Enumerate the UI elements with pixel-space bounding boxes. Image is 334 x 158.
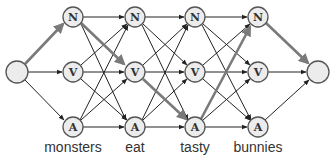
node-label: A (253, 121, 263, 134)
column-eat: N V A (125, 7, 145, 137)
node-label: A (68, 121, 78, 134)
node-label: V (253, 66, 263, 79)
tag-lattice-diagram: N V A N V A N V A N V A monsters eat tas… (0, 0, 334, 158)
node-label: V (68, 66, 78, 79)
word-label-eat: eat (125, 139, 145, 155)
node-label: V (190, 66, 200, 79)
node-label: A (190, 121, 200, 134)
end-node (307, 61, 329, 83)
node-label: N (253, 11, 263, 24)
word-label-monsters: monsters (44, 139, 102, 155)
node-label: V (130, 66, 140, 79)
node-label: N (190, 11, 200, 24)
node-label: N (130, 11, 140, 24)
column-monsters: N V A (63, 7, 83, 137)
start-node (6, 61, 28, 83)
word-label-bunnies: bunnies (233, 139, 282, 155)
word-label-tasty: tasty (180, 139, 210, 155)
column-bunnies: N V A (248, 7, 268, 137)
node-label: N (68, 11, 78, 24)
node-label: A (130, 121, 140, 134)
